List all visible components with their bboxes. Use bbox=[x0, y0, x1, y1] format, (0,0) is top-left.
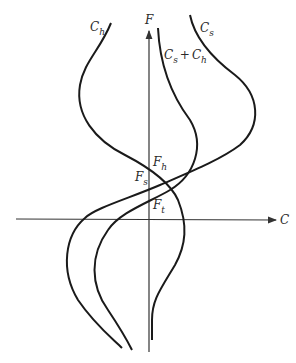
figure-canvas: Ch Cs Cs+Ch F C Fh Fs Ft bbox=[0, 0, 296, 363]
label-cs-plus-ch: Cs+Ch bbox=[164, 48, 207, 65]
label-axis-f: F bbox=[144, 13, 154, 27]
label-ft: Ft bbox=[152, 198, 165, 215]
label-fs: Fs bbox=[134, 170, 148, 187]
label-cs: Cs bbox=[200, 21, 214, 38]
label-ch: Ch bbox=[90, 20, 105, 37]
label-axis-c: C bbox=[280, 213, 289, 227]
c-axis bbox=[16, 219, 276, 220]
label-fh: Fh bbox=[152, 155, 167, 172]
curve-cs-plus-ch bbox=[95, 28, 198, 350]
curve-cs bbox=[67, 15, 255, 348]
